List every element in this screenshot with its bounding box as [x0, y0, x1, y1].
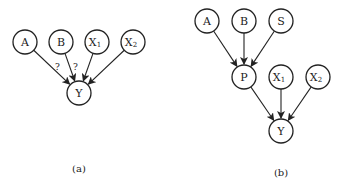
- edge-x2-to-y: [288, 87, 311, 120]
- edge-x1-to-y: [83, 53, 93, 80]
- node-x1: X1: [85, 30, 109, 54]
- node-y: Y: [269, 119, 293, 143]
- node-label: P: [240, 71, 248, 84]
- caption-b: (b): [274, 167, 288, 178]
- node-x2: X2: [121, 30, 145, 54]
- node-s: S: [269, 9, 293, 33]
- edge-label-question-mark: ?: [73, 62, 78, 72]
- node-label: A: [20, 36, 30, 49]
- node-y: Y: [67, 81, 91, 105]
- node-a: A: [13, 30, 37, 54]
- edge-p-to-y: [251, 87, 274, 120]
- caption-a: (a): [72, 163, 86, 174]
- node-label: Y: [276, 125, 285, 138]
- edge-s-to-p: [251, 31, 274, 66]
- node-x2: X2: [306, 65, 330, 89]
- node-label: B: [57, 36, 65, 49]
- edge-x2-to-y: [88, 50, 124, 84]
- panel-a: ??ABX1X2Y: [13, 30, 145, 105]
- node-b: B: [232, 9, 256, 33]
- diagram-canvas: ??ABX1X2Y ABSPX1X2Y (a) (b): [0, 0, 340, 189]
- node-p: P: [232, 65, 256, 89]
- node-label: S: [277, 15, 285, 28]
- edge-label-question-mark: ?: [55, 62, 60, 72]
- node-label: B: [240, 15, 248, 28]
- panel-b: ABSPX1X2Y: [195, 9, 330, 143]
- node-b: B: [49, 30, 73, 54]
- node-label: A: [202, 15, 212, 28]
- edge-a-to-p: [214, 31, 237, 66]
- node-a: A: [195, 9, 219, 33]
- node-label: Y: [74, 87, 83, 100]
- edge-a-to-y: [34, 50, 70, 84]
- node-x1: X1: [269, 65, 293, 89]
